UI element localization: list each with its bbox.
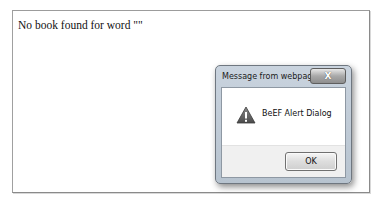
alert-dialog: Message from webpage X BeEF Alert Dialog… — [215, 65, 352, 184]
dialog-title: Message from webpage — [222, 72, 317, 81]
close-icon: X — [325, 71, 332, 81]
dialog-footer: OK — [222, 145, 345, 177]
no-book-message: No book found for word "" — [18, 19, 143, 31]
warning-icon — [236, 106, 256, 124]
dialog-body: BeEF Alert Dialog OK — [221, 87, 346, 178]
close-button[interactable]: X — [310, 68, 346, 84]
alert-message: BeEF Alert Dialog — [262, 109, 332, 118]
ok-button[interactable]: OK — [285, 152, 337, 171]
dialog-content: BeEF Alert Dialog — [222, 88, 345, 146]
